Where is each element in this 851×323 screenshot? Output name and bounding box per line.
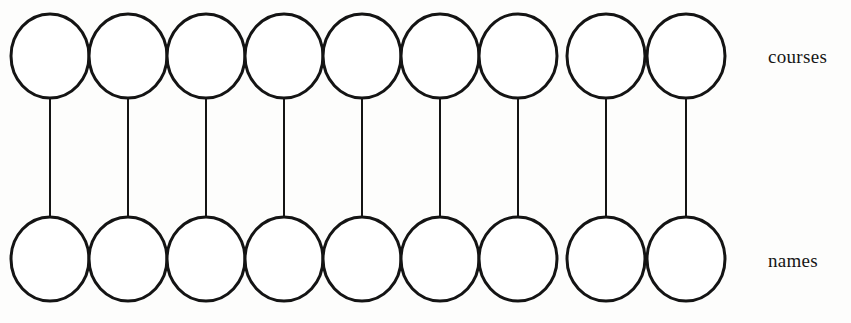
- bipartite-graph-canvas: [0, 0, 851, 323]
- course-node-8[interactable]: [567, 14, 645, 98]
- row-label-courses: courses: [768, 46, 827, 68]
- course-node-4[interactable]: [245, 14, 323, 98]
- top-row-nodes-group: [11, 14, 725, 98]
- name-node-7[interactable]: [479, 217, 557, 301]
- course-node-6[interactable]: [401, 14, 479, 98]
- name-node-8[interactable]: [567, 217, 645, 301]
- name-node-2[interactable]: [89, 217, 167, 301]
- bottom-row-nodes-group: [11, 217, 725, 301]
- name-node-5[interactable]: [323, 217, 401, 301]
- diagram-page: courses names: [0, 0, 851, 323]
- name-node-9[interactable]: [647, 217, 725, 301]
- course-node-2[interactable]: [89, 14, 167, 98]
- course-node-9[interactable]: [647, 14, 725, 98]
- course-node-5[interactable]: [323, 14, 401, 98]
- edges-group: [50, 98, 686, 217]
- name-node-3[interactable]: [167, 217, 245, 301]
- name-node-6[interactable]: [401, 217, 479, 301]
- name-node-4[interactable]: [245, 217, 323, 301]
- course-node-7[interactable]: [479, 14, 557, 98]
- name-node-1[interactable]: [11, 217, 89, 301]
- course-node-1[interactable]: [11, 14, 89, 98]
- row-label-names: names: [768, 250, 818, 272]
- course-node-3[interactable]: [167, 14, 245, 98]
